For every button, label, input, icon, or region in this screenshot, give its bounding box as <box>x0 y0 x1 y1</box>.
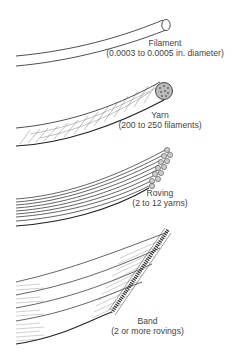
band-title: Band <box>105 316 190 326</box>
roving-detail: (2 to 12 yarns) <box>125 198 195 208</box>
roving-label: Roving (2 to 12 yarns) <box>125 188 195 208</box>
yarn-detail: (200 to 250 filaments) <box>110 120 210 130</box>
band-label: Band (2 or more rovings) <box>105 316 190 336</box>
roving-title: Roving <box>125 188 195 198</box>
roving-illustration <box>16 147 173 226</box>
yarn-label: Yarn (200 to 250 filaments) <box>110 110 210 130</box>
yarn-title: Yarn <box>110 110 210 120</box>
filament-title: Filament <box>95 38 235 48</box>
filament-detail: (0.0003 to 0.0005 in. diameter) <box>95 48 235 58</box>
filament-label: Filament (0.0003 to 0.0005 in. diameter) <box>95 38 235 58</box>
band-detail: (2 or more rovings) <box>105 326 190 336</box>
